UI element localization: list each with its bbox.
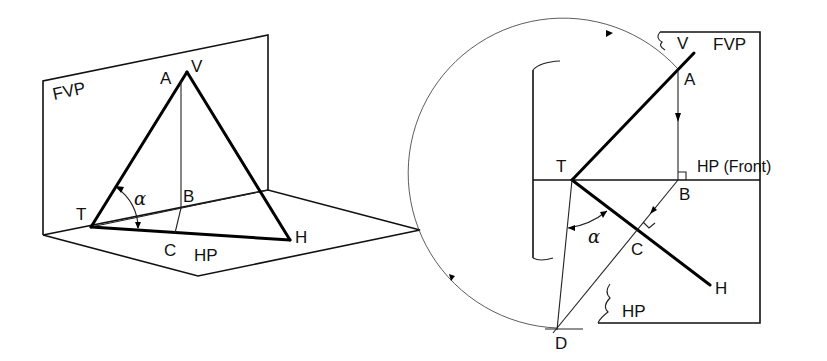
break-mark-icon (658, 32, 665, 50)
label-c: C (631, 240, 643, 259)
line-bc (175, 208, 181, 233)
label-a: A (160, 69, 172, 88)
trace-vt (572, 53, 694, 180)
label-alpha: α (588, 226, 600, 247)
arrowhead-icon (568, 225, 575, 231)
label-hp: HP (194, 246, 218, 265)
trace-vh (187, 72, 290, 240)
xy-line (91, 190, 268, 227)
right-angle-mark (678, 172, 686, 180)
label-b: B (183, 187, 194, 206)
label-alpha: α (134, 188, 146, 209)
label-h: H (295, 228, 307, 247)
break-mark-icon (598, 284, 610, 323)
arrowhead-icon (675, 113, 681, 122)
arrowhead-icon (600, 211, 607, 218)
arrowhead-icon (135, 222, 141, 229)
hp-plane-outline (43, 190, 420, 276)
label-b: B (679, 185, 690, 204)
rotation-arc (408, 18, 678, 328)
label-h: H (715, 279, 727, 298)
label-v: V (191, 57, 203, 76)
label-hp: HP (622, 302, 646, 321)
label-d: D (555, 334, 567, 353)
arrowhead-icon (606, 30, 613, 37)
label-fvp: FVP (51, 78, 87, 103)
break-mark-icon (533, 258, 553, 260)
break-mark-icon (533, 61, 560, 70)
line-bd (553, 180, 678, 333)
right-orthographic-view: V FVP A T HP (Front) B α C H HP D (408, 18, 771, 353)
left-pictorial-view: FVP A V T α B C HP H (43, 35, 420, 276)
label-hp-front: HP (Front) (697, 158, 771, 175)
label-v: V (677, 34, 689, 53)
line-td (557, 180, 572, 330)
arrowhead-icon (449, 274, 455, 281)
label-c: C (164, 241, 176, 260)
right-angle-mark (643, 222, 655, 228)
label-a: A (684, 70, 696, 89)
label-fvp: FVP (713, 35, 746, 54)
label-t: T (556, 157, 566, 176)
diagram-svg: FVP A V T α B C HP H (0, 0, 827, 361)
diagram-canvas: FVP A V T α B C HP H (0, 0, 827, 361)
label-t: T (76, 205, 86, 224)
trace-th (91, 227, 290, 240)
